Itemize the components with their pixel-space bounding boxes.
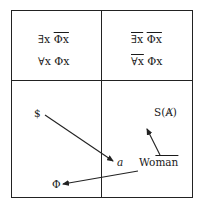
arrow-woman-to-s-barred-other bbox=[147, 129, 160, 155]
arrow-woman-to-phallus bbox=[63, 171, 138, 184]
arrow-subject-to-a bbox=[45, 115, 113, 161]
arrows-layer bbox=[0, 0, 202, 209]
